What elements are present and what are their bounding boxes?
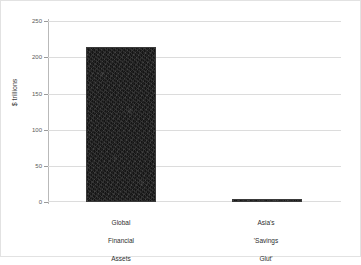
x-label-line-2: 'Savings — [216, 236, 316, 245]
x-label-global-financial-assets: Global Financial Assets — [71, 209, 171, 265]
y-tick-label-0: 0 — [1, 199, 42, 205]
y-tick-mark-0 — [44, 202, 48, 203]
y-tick-label-250: 250 — [1, 18, 42, 24]
x-label-line-1: Global — [71, 218, 171, 227]
y-tick-label-100: 100 — [1, 127, 42, 133]
x-label-line-3: Assets — [71, 254, 171, 263]
bar-asia-savings-glut[interactable] — [232, 199, 302, 202]
y-tick-label-200: 200 — [1, 54, 42, 60]
gridline-250 — [48, 21, 341, 22]
x-label-asia-savings-glut: Asia's 'Savings Glut' — [216, 209, 316, 265]
y-tick-label-150: 150 — [1, 91, 42, 97]
x-label-line-2: Financial — [71, 236, 171, 245]
x-label-line-1: Asia's — [216, 218, 316, 227]
x-label-line-3: Glut' — [216, 254, 316, 263]
plot-area — [48, 21, 341, 202]
y-tick-label-50: 50 — [1, 163, 42, 169]
bar-global-financial-assets[interactable] — [86, 47, 156, 202]
